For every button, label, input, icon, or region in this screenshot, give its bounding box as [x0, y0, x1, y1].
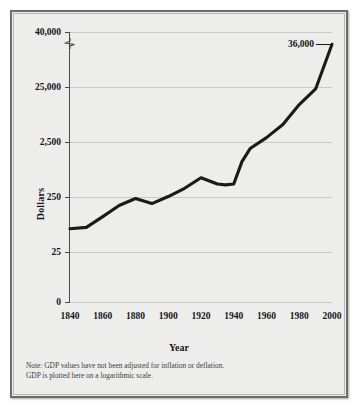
- x-axis-title: Year: [12, 342, 346, 353]
- footnote: Note: GDP values have not been adjusted …: [26, 361, 332, 382]
- x-axis-tick-label: 1900: [159, 311, 178, 321]
- gdp-line-series: [70, 32, 332, 302]
- y-axis-tick: [65, 302, 70, 303]
- x-axis-tick-label: 1980: [290, 311, 309, 321]
- y-axis-tick-label: 2,500: [40, 137, 61, 147]
- endpoint-annotation: 36,000: [288, 39, 332, 49]
- figure-panel: Dollars Year 0252502,50025,00040,0001840…: [10, 10, 348, 398]
- x-axis-tick-label: 1880: [126, 311, 145, 321]
- x-axis-tick-label: 2000: [323, 311, 342, 321]
- y-axis-tick-label: 250: [47, 192, 61, 202]
- x-axis-tick-label: 1940: [224, 311, 243, 321]
- gridline: [70, 302, 332, 303]
- y-axis-tick-label: 0: [56, 297, 61, 307]
- y-axis-tick-label: 25,000: [35, 82, 61, 92]
- y-axis-tick-label: 25: [52, 247, 62, 257]
- plot-area: 0252502,50025,00040,00018401860188019001…: [70, 32, 332, 302]
- x-axis-tick-label: 1860: [93, 311, 112, 321]
- endpoint-value-label: 36,000: [288, 39, 314, 49]
- footnote-line-2: GDP is plotted here on a logarithmic sca…: [26, 371, 332, 382]
- annotation-leader-line: [316, 44, 332, 46]
- footnote-line-1: Note: GDP values have not been adjusted …: [26, 361, 332, 372]
- x-axis-tick-label: 1920: [192, 311, 211, 321]
- y-axis-title: Dollars: [35, 188, 46, 221]
- x-axis-tick-label: 1840: [61, 311, 80, 321]
- x-axis-tick-label: 1960: [257, 311, 276, 321]
- y-axis-tick-label: 40,000: [35, 27, 61, 37]
